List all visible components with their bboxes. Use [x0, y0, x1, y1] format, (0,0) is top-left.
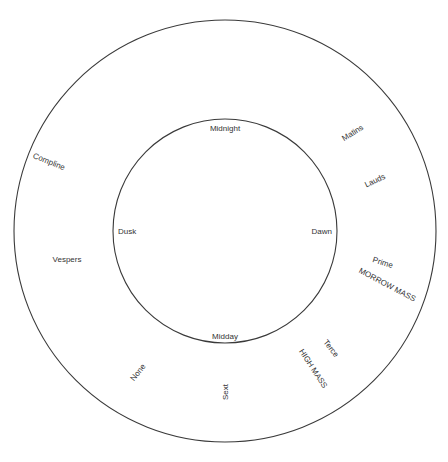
label-high-mass: HIGH MASS — [297, 347, 329, 390]
label-prime: Prime — [371, 255, 394, 270]
label-midday: Midday — [212, 332, 238, 341]
label-compline: Compline — [32, 151, 67, 172]
label-vespers: Vespers — [53, 255, 82, 264]
inner-circle — [113, 119, 337, 343]
canonical-hours-diagram: Midnight Dawn Midday Dusk Matins Lauds P… — [0, 0, 448, 462]
label-morrow-mass: MORROW MASS — [357, 266, 417, 304]
label-matins: Matins — [340, 123, 365, 143]
label-dawn: Dawn — [312, 227, 332, 236]
label-dusk: Dusk — [118, 227, 137, 236]
outer-circle — [14, 20, 436, 442]
label-none: None — [129, 362, 148, 383]
label-terce: Terce — [321, 338, 340, 359]
label-lauds: Lauds — [363, 172, 387, 189]
label-sext: Sext — [221, 383, 230, 400]
label-midnight: Midnight — [210, 124, 241, 133]
